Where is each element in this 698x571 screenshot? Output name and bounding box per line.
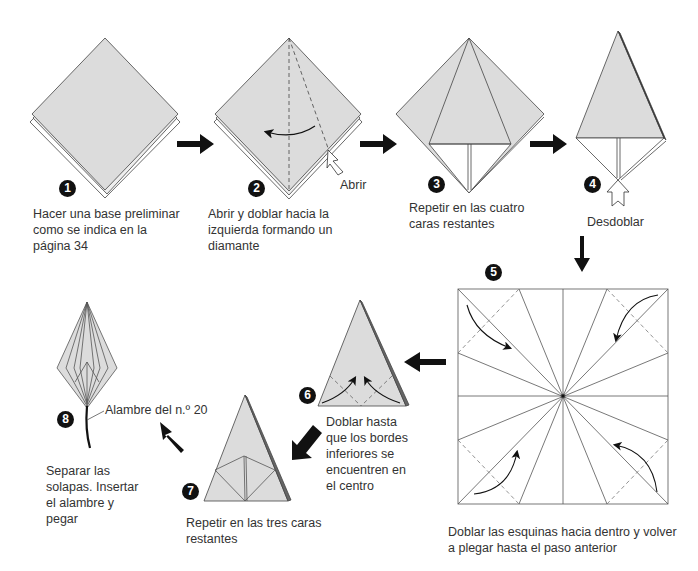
step-5-number: 5 — [485, 264, 502, 281]
step-6-figure — [318, 300, 409, 406]
step-1-caption: Hacer una base preliminar como se indica… — [33, 206, 180, 254]
step-1-figure — [30, 38, 180, 198]
step-3-caption: Repetir en las cuatro caras restantes — [409, 200, 524, 232]
step-2-figure — [214, 38, 362, 199]
step-8-number: 8 — [57, 411, 74, 428]
step-8-caption: Separar las solapas. Insertar el alambre… — [46, 463, 138, 527]
step-4-caption: Desdoblar — [587, 214, 644, 230]
step-5-caption: Doblar las esquinas hacia dentro y volve… — [448, 524, 677, 556]
step-2-open-label: Abrir — [340, 177, 366, 193]
step-4-number: 4 — [584, 176, 601, 193]
step-2-caption: Abrir y doblar hacia la izquierda forman… — [208, 206, 332, 254]
step-2-number: 2 — [248, 180, 265, 197]
step-3-number: 3 — [428, 176, 445, 193]
step-6-caption: Doblar hasta que los bordes inferiores s… — [326, 414, 408, 494]
step-8-wire-label: Alambre del n.º 20 — [105, 402, 208, 418]
step-5-figure — [458, 289, 668, 504]
step-7-number: 7 — [182, 483, 199, 500]
step-7-caption: Repetir en las tres caras restantes — [186, 515, 321, 547]
step-3-figure — [396, 38, 544, 193]
step-7-figure — [204, 395, 291, 501]
step-1-number: 1 — [59, 180, 76, 197]
step-6-number: 6 — [299, 387, 316, 404]
